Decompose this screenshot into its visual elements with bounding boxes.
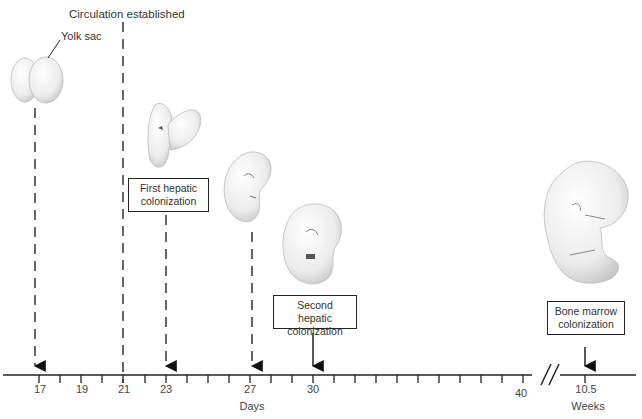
second-hepatic-line1: Second hepatic [279, 299, 351, 325]
axis-break-icon [541, 364, 559, 385]
tick-label-10-5: 10.5 [575, 383, 596, 395]
bone-marrow-colonization-box: Bone marrow colonization [547, 301, 625, 335]
day27-embryo-illustration [224, 152, 271, 222]
fetus-10-5-weeks-illustration [544, 161, 628, 283]
day23-embryo-illustration [148, 103, 201, 167]
tick-label-23: 23 [160, 383, 172, 395]
bone-marrow-line1: Bone marrow [553, 305, 619, 318]
second-hepatic-line2: colonization [279, 325, 351, 338]
circulation-established-label: Circulation established [69, 8, 185, 20]
hematopoiesis-timeline-diagram: Circulation established Yolk sac First h… [0, 0, 642, 419]
day-ticks [39, 375, 585, 383]
day30-embryo-illustration [283, 204, 342, 284]
tick-label-30: 30 [307, 383, 319, 395]
tick-label-19: 19 [76, 383, 88, 395]
yolk-sac-pointer [48, 40, 60, 58]
yolk-sac-embryo-illustration [11, 57, 63, 103]
tick-label-21: 21 [118, 383, 130, 395]
bone-marrow-line2: colonization [553, 318, 619, 331]
weeks-axis-title: Weeks [571, 400, 604, 412]
first-hepatic-line2: colonization [134, 195, 203, 208]
tick-label-17: 17 [34, 383, 46, 395]
tick-label-40: 40 [515, 387, 527, 399]
timeline-graphic [0, 0, 642, 419]
yolk-sac-label: Yolk sac [61, 30, 102, 42]
second-hepatic-colonization-box: Second hepatic colonization [273, 295, 357, 329]
days-axis-title: Days [239, 400, 264, 412]
tick-label-27: 27 [244, 383, 256, 395]
first-hepatic-line1: First hepatic [134, 182, 203, 195]
first-hepatic-colonization-box: First hepatic colonization [128, 178, 209, 212]
